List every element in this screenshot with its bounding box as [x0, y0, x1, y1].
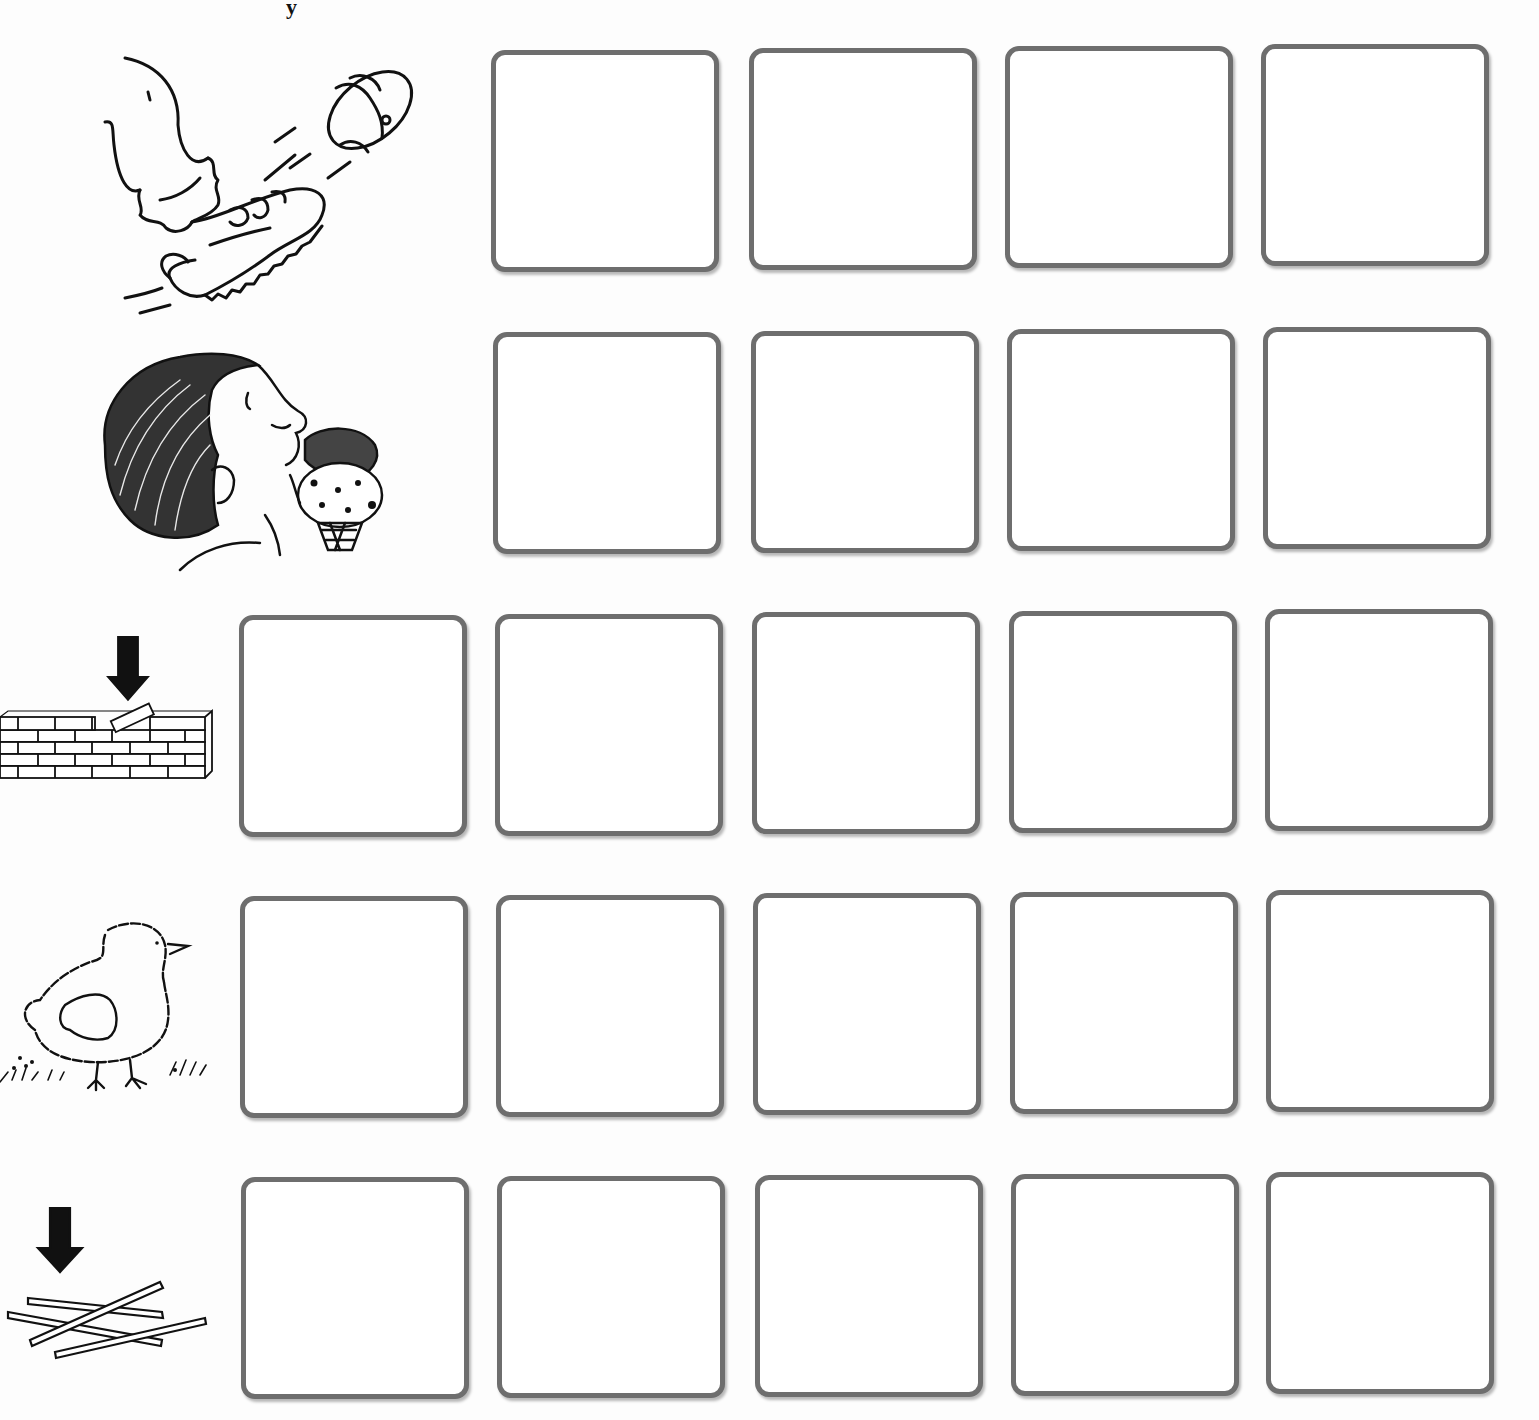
letter-box[interactable] — [491, 50, 719, 272]
letter-box[interactable] — [497, 1176, 725, 1398]
sticks-with-arrow-icon — [0, 1200, 215, 1340]
letter-box[interactable] — [1266, 1172, 1494, 1394]
letter-box[interactable] — [496, 895, 724, 1117]
letter-box[interactable] — [239, 615, 467, 837]
letter-box[interactable] — [1005, 46, 1233, 268]
letter-box[interactable] — [240, 896, 468, 1118]
letter-box[interactable] — [751, 331, 979, 553]
letter-box[interactable] — [1263, 327, 1491, 549]
letter-box[interactable] — [495, 614, 723, 836]
letter-box[interactable] — [752, 612, 980, 834]
letter-box[interactable] — [1007, 329, 1235, 551]
letter-box[interactable] — [1009, 611, 1237, 833]
letter-box[interactable] — [1266, 890, 1494, 1112]
letter-box[interactable] — [753, 893, 981, 1115]
letter-box[interactable] — [1010, 892, 1238, 1114]
letter-box[interactable] — [749, 48, 977, 270]
brick-wall-with-arrow-icon — [0, 625, 215, 785]
letter-box[interactable] — [493, 332, 721, 554]
foot-kicking-football-icon — [100, 50, 430, 320]
baby-chick-icon — [0, 910, 215, 1090]
letter-box[interactable] — [1011, 1174, 1239, 1396]
boy-licking-ice-cream-icon — [100, 345, 400, 580]
letter-box[interactable] — [1261, 44, 1489, 266]
cropped-heading-fragment: y — [286, 0, 297, 20]
letter-box[interactable] — [241, 1177, 469, 1399]
letter-box[interactable] — [755, 1175, 983, 1397]
letter-box[interactable] — [1265, 609, 1493, 831]
